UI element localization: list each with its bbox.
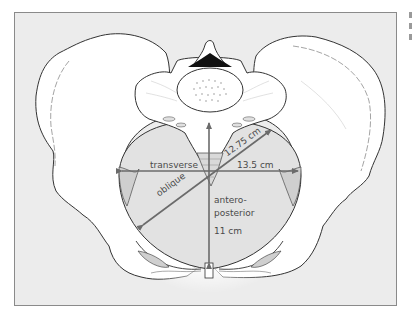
- pubic-symphysis: [205, 263, 213, 278]
- vertebral-body: [177, 68, 243, 112]
- pelvis-illustration: [14, 12, 397, 306]
- transverse-label: transverse: [150, 161, 198, 170]
- ap-value-label: 11 cm: [214, 227, 242, 236]
- clipped-edge-marks: [409, 12, 414, 48]
- ap-label-line1: antero-: [214, 196, 247, 205]
- transverse-value-label: 13.5 cm: [237, 161, 274, 170]
- diagram-frame: transverse 13.5 cm oblique 12.75 cm ante…: [14, 12, 397, 306]
- ap-label-line2: posterior: [214, 209, 254, 218]
